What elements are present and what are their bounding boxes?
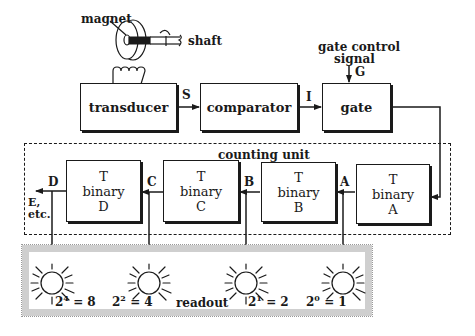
weight-value: = 2 [266, 295, 289, 309]
weight-value: = 1 [324, 295, 347, 309]
weight-exp: 4 [63, 293, 69, 303]
weight-exp: 0 [314, 293, 320, 303]
lamp-weight-2: 21 = 2 [248, 293, 289, 309]
lamp-weight-4: 22 = 4 [112, 293, 153, 309]
readout-lamps [0, 0, 475, 336]
weight-exp: 2 [120, 293, 126, 303]
readout-title: readout [176, 296, 228, 310]
lamp-weight-1: 20 = 1 [306, 293, 347, 309]
weight-value: = 8 [73, 295, 96, 309]
lamp-weight-8: 24 = 8 [55, 293, 96, 309]
weight-value: = 4 [130, 295, 153, 309]
weight-exp: 1 [256, 293, 262, 303]
